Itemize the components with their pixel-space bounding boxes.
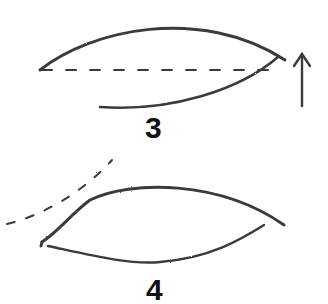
lower-lid-curve xyxy=(100,57,278,108)
step-number-3: 3 xyxy=(145,113,162,143)
lid-corner-stub xyxy=(41,242,42,246)
lower-lid-curve xyxy=(48,225,264,263)
diagonal-dashed-line xyxy=(7,160,112,224)
up-arrow-icon xyxy=(294,54,310,106)
step-number-4: 4 xyxy=(146,275,163,304)
step-4-eye-outline xyxy=(7,160,284,263)
step-3-eye-outline xyxy=(40,28,285,107)
upper-lid-curve xyxy=(40,28,285,70)
